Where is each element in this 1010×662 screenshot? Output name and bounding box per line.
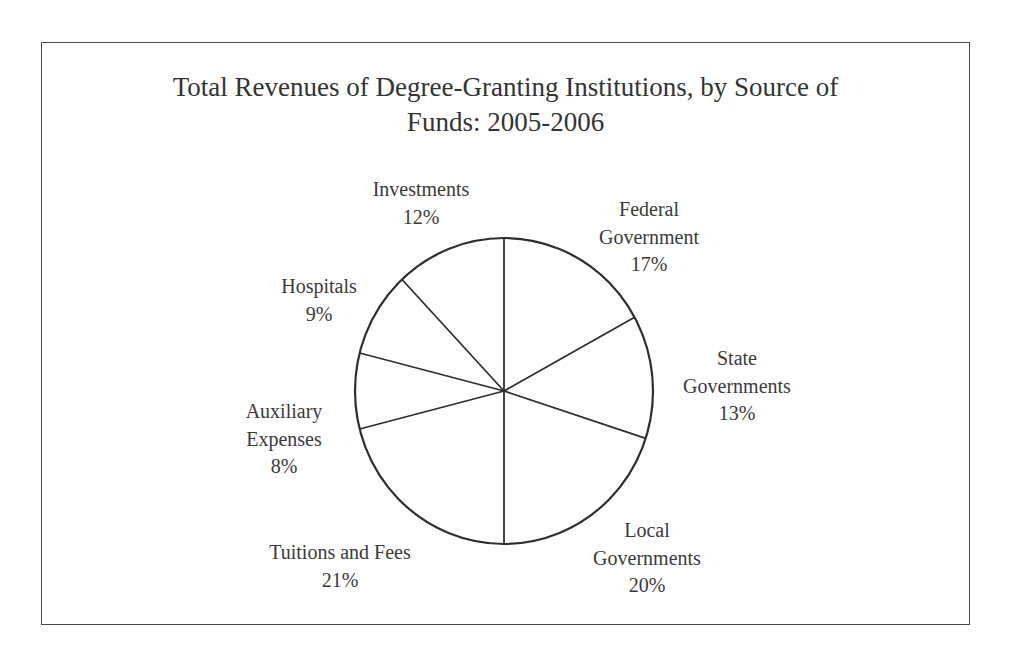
label-auxiliary-name-2: Expenses	[246, 426, 323, 454]
slice-divider-state-governments	[504, 317, 635, 391]
label-hospitals-value: 9%	[281, 301, 357, 329]
pie-slices	[360, 238, 646, 544]
label-investments-name: Investments	[373, 176, 470, 204]
label-tuitions-name: Tuitions and Fees	[269, 539, 411, 567]
slice-divider-investments	[402, 280, 504, 392]
label-federal-government: Federal Government 17%	[599, 196, 699, 279]
label-state-governments: State Governments 13%	[683, 345, 791, 428]
label-state-value: 13%	[683, 400, 791, 428]
label-federal-name-1: Federal	[599, 196, 699, 224]
pie-chart	[0, 0, 1010, 662]
label-state-name-1: State	[683, 345, 791, 373]
label-investments-value: 12%	[373, 204, 470, 232]
label-auxiliary-value: 8%	[246, 453, 323, 481]
label-hospitals-name: Hospitals	[281, 273, 357, 301]
label-local-name-1: Local	[593, 517, 701, 545]
label-local-governments: Local Governments 20%	[593, 517, 701, 600]
label-tuitions-value: 21%	[269, 567, 411, 595]
slice-divider-hospitals	[360, 353, 504, 391]
label-state-name-2: Governments	[683, 373, 791, 401]
label-local-value: 20%	[593, 572, 701, 600]
label-auxiliary-name-1: Auxiliary	[246, 398, 323, 426]
label-auxiliary-expenses: Auxiliary Expenses 8%	[246, 398, 323, 481]
label-federal-name-2: Government	[599, 224, 699, 252]
slice-divider-local-governments	[504, 391, 646, 438]
label-tuitions-and-fees: Tuitions and Fees 21%	[269, 539, 411, 594]
label-federal-value: 17%	[599, 251, 699, 279]
label-local-name-2: Governments	[593, 545, 701, 573]
label-investments: Investments 12%	[373, 176, 470, 231]
label-hospitals: Hospitals 9%	[281, 273, 357, 328]
slice-divider-auxiliary-expenses	[360, 391, 504, 429]
